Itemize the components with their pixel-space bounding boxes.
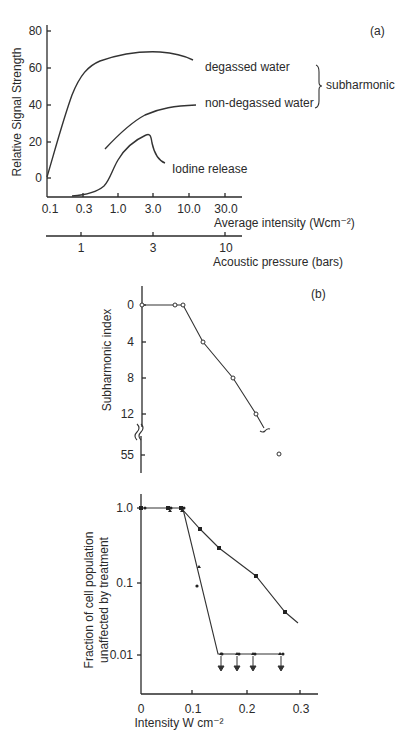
c-xtick: 0.2: [239, 702, 256, 716]
b-y-label: Subharmonic index: [100, 309, 114, 412]
a-pressure-tick: 1: [78, 241, 85, 255]
a-ytick: 20: [29, 135, 43, 149]
c-ytick: 1.0: [116, 501, 133, 515]
c-x-label: Intensity W cm⁻²: [134, 716, 223, 730]
b-ytick: 8: [127, 371, 134, 385]
degassed-water-label: degassed water: [205, 60, 290, 74]
c-xtick: 0.3: [293, 702, 310, 716]
a-pressure-tick: 3: [150, 241, 157, 255]
c-ytick: 0.1: [116, 576, 133, 590]
a-pressure-tick: 10: [219, 241, 233, 255]
figure: (a) 80 60 40 20 0 Relative Signal Streng…: [0, 0, 415, 741]
b-ytick: 0: [127, 298, 134, 312]
b-line-break-icon: [260, 429, 270, 432]
a-ytick: 40: [29, 98, 43, 112]
squares-series-points: [139, 506, 287, 614]
b-ytick: 4: [127, 335, 134, 349]
subharmonic-index-line: [142, 305, 264, 428]
a-ytick: 60: [29, 61, 43, 75]
a-pressure-label: Acoustic pressure (bars): [213, 255, 343, 269]
a-xtick: 30.0: [214, 202, 238, 216]
c-y-label-line2: unaffected by treatment: [97, 536, 111, 663]
a-x-label: Average intensity (Wcm⁻²): [214, 216, 355, 230]
a-y-label: Relative Signal Strength: [10, 48, 24, 177]
panel-a-label: (a): [370, 24, 385, 38]
panel-b-subharmonic-chart: (b) 0 4 8 12 55 Subharmonic index: [100, 286, 326, 473]
a-xtick: 3.0: [145, 202, 162, 216]
degassed-water-curve: [47, 52, 193, 177]
upper-limit-arrow-icons: [218, 656, 284, 671]
iodine-release-label: Iodine release: [172, 162, 248, 176]
subharmonic-brace: [315, 65, 322, 108]
c-y-label-line1: Fraction of cell population: [82, 532, 96, 669]
a-xtick: 10.0: [177, 202, 201, 216]
iodine-release-curve: [72, 134, 165, 196]
subharmonic-index-points: [140, 303, 281, 456]
c-y-ticks: 1.0 0.1 0.01: [110, 501, 141, 662]
squares-series-line: [141, 508, 298, 623]
subharmonic-label: subharmonic: [326, 78, 395, 92]
panel-a-chart: (a) 80 60 40 20 0 Relative Signal Streng…: [10, 24, 395, 269]
panel-b-cell-fraction-chart: 1.0 0.1 0.01 Fraction of cell population…: [82, 494, 318, 730]
a-ytick: 0: [35, 171, 42, 185]
c-xtick: 0.1: [185, 702, 202, 716]
panel-b-label: (b): [311, 287, 326, 301]
a-xtick: 0.1: [42, 202, 59, 216]
b-ytick: 12: [121, 407, 135, 421]
c-ytick: 0.01: [110, 648, 134, 662]
a-xtick: 0.3: [76, 202, 93, 216]
a-ytick: 80: [29, 24, 43, 38]
b-ytick: 55: [121, 448, 135, 462]
a-xtick: 1.0: [110, 202, 127, 216]
c-xtick: 0: [138, 702, 145, 716]
non-degassed-water-label: non-degassed water: [205, 96, 314, 110]
triangles-series-points: [144, 507, 285, 656]
non-degassed-water-curve: [105, 105, 196, 149]
